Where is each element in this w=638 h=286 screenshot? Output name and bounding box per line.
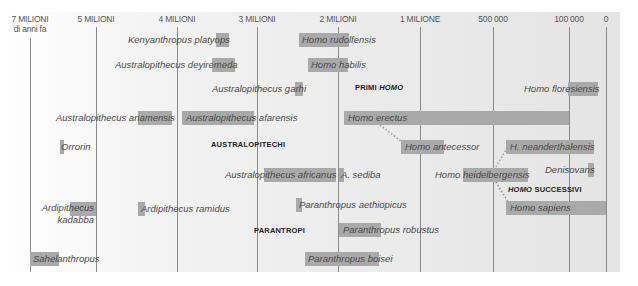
- lineage-connector: [496, 182, 508, 202]
- lineage-connectors: [0, 0, 638, 286]
- lineage-connector: [496, 146, 508, 167]
- lineage-connector: [380, 125, 402, 142]
